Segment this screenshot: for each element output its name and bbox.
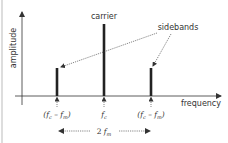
x-axis-label: frequency xyxy=(181,99,221,108)
diagram-svg: amplitude frequency carrier sidebands (f… xyxy=(0,0,228,143)
sidebands-label: sidebands xyxy=(158,23,199,32)
tick-label-upper-sideband: (fc – fm) xyxy=(137,110,165,120)
carrier-label: carrier xyxy=(91,12,118,21)
tick-label-carrier: fc xyxy=(100,110,107,120)
pointer-lower-sideband xyxy=(61,33,157,67)
bandwidth-label: 2 fm xyxy=(97,127,112,137)
pointer-upper-sideband xyxy=(153,34,171,66)
tick-label-lower-sideband: (fc – fm) xyxy=(43,110,71,120)
am-spectrum-diagram: amplitude frequency carrier sidebands (f… xyxy=(0,0,228,143)
y-axis-label: amplitude xyxy=(9,28,18,69)
